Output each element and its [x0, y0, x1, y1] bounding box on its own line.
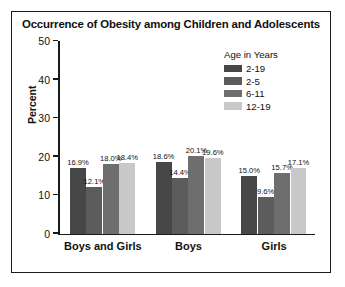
legend-entry[interactable]: 2-5	[224, 77, 324, 86]
bar[interactable]: 18.4%	[119, 163, 135, 234]
legend-swatch	[224, 102, 242, 110]
bar-group: 16.9%12.1%18.0%18.4%Boys and Girls	[70, 41, 136, 234]
legend-swatch	[224, 90, 242, 98]
bar[interactable]: 20.1%	[188, 156, 204, 233]
x-category-label: Boys	[175, 240, 202, 252]
bar-value-label: 18.4%	[116, 153, 138, 162]
legend-entry[interactable]: 12-19	[224, 102, 324, 111]
y-tick-label: 40	[38, 74, 50, 86]
bar-value-label: 18.6%	[153, 152, 175, 161]
y-axis-title: Percent	[26, 85, 38, 124]
y-tick	[53, 155, 58, 156]
bar-value-label: 15.0%	[239, 166, 261, 175]
legend-swatch	[224, 77, 242, 85]
bar[interactable]: 15.7%	[274, 173, 290, 233]
y-tick-label: 20	[38, 151, 50, 163]
y-tick-label: 50	[38, 35, 50, 47]
legend-title: Age in Years	[224, 49, 324, 60]
bar[interactable]: 14.4%	[172, 178, 188, 233]
y-tick	[53, 117, 58, 118]
legend-swatch	[224, 65, 242, 73]
y-tick	[53, 232, 58, 233]
bar[interactable]: 19.6%	[205, 158, 221, 233]
bar[interactable]: 12.1%	[86, 187, 102, 234]
bar[interactable]: 17.1%	[291, 168, 307, 234]
bar-value-label: 16.9%	[67, 158, 89, 167]
bar[interactable]: 15.0%	[241, 176, 257, 234]
y-tick	[53, 194, 58, 195]
legend-entries: 2-192-56-1112-19	[224, 64, 324, 111]
legend-label: 2-5	[246, 76, 260, 87]
chart-figure: Occurrence of Obesity among Children and…	[11, 11, 331, 273]
legend-entry[interactable]: 6-11	[224, 89, 324, 98]
bar-value-label: 19.6%	[202, 148, 224, 157]
legend: Age in Years 2-192-56-1112-19	[224, 49, 324, 114]
y-tick-label: 10	[38, 189, 50, 201]
legend-label: 2-19	[246, 63, 265, 74]
x-axis-line	[58, 234, 315, 236]
legend-entry[interactable]: 2-19	[224, 64, 324, 73]
y-tick-label: 30	[38, 112, 50, 124]
legend-label: 6-11	[246, 88, 265, 99]
x-category-label: Girls	[262, 240, 287, 252]
legend-label: 12-19	[246, 101, 271, 112]
bar-group: 18.6%14.4%20.1%19.6%Boys	[156, 41, 222, 234]
x-category-label: Boys and Girls	[64, 240, 142, 252]
y-tick-label: 0	[44, 228, 50, 240]
y-axis-line	[58, 41, 60, 235]
chart-title: Occurrence of Obesity among Children and…	[12, 18, 330, 30]
y-tick	[53, 78, 58, 79]
bar[interactable]: 9.6%	[258, 197, 274, 234]
y-tick	[53, 40, 58, 41]
bar[interactable]: 18.0%	[103, 164, 119, 233]
bar-value-label: 9.6%	[257, 187, 274, 196]
bar-value-label: 17.1%	[288, 158, 310, 167]
